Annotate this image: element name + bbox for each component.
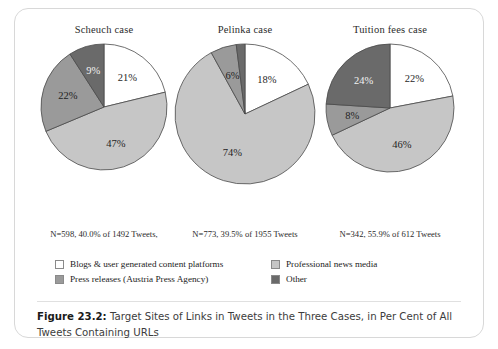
- pie-slice-label: 47%: [106, 138, 126, 149]
- figure-caption: Figure 23.2: Target Sites of Links in Tw…: [37, 309, 465, 341]
- figure-caption-label: Figure 23.2:: [37, 311, 107, 322]
- pie-charts-row: Scheuch case 21%47%22%9% N=598, 40.0% of…: [15, 9, 485, 251]
- pie-chart-scheuch: Scheuch case 21%47%22%9% N=598, 40.0% of…: [29, 23, 179, 251]
- pie-slice-label: 21%: [118, 72, 137, 83]
- chart-legend: Blogs & user generated content platforms…: [41, 259, 461, 291]
- legend-item-other: Other: [271, 274, 307, 285]
- pie-slice-label: 18%: [257, 74, 277, 85]
- sample-size-note-tuition-fees: N=342, 55.9% of 612 Tweets: [307, 229, 473, 239]
- pie-slice-label: 6%: [225, 70, 239, 81]
- figure-container: Scheuch case 21%47%22%9% N=598, 40.0% of…: [14, 8, 484, 338]
- pie-graphic-scheuch: 21%47%22%9%: [38, 41, 170, 173]
- legend-item-professional-news-media: Professional news media: [271, 259, 377, 270]
- pie-slice-label: 9%: [86, 65, 100, 76]
- legend-swatch-professional-news-media: [271, 260, 280, 269]
- legend-swatch-blogs: [55, 260, 64, 269]
- chart-title-tuition-fees: Tuition fees case: [315, 23, 465, 37]
- pie-chart-tuition-fees: Tuition fees case 22%46%8%24% N=342, 55.…: [315, 23, 465, 251]
- legend-label-press-releases: Press releases (Austria Press Agency): [70, 274, 208, 285]
- pie-slice-label: 22%: [405, 73, 425, 84]
- chart-title-pelinka: Pelinka case: [170, 23, 320, 37]
- pie-graphic-pelinka: 18%74%6%: [172, 41, 318, 187]
- chart-title-scheuch: Scheuch case: [29, 23, 179, 37]
- legend-label-other: Other: [286, 274, 307, 285]
- pie-slice-label: 24%: [354, 75, 374, 86]
- caption-divider: [37, 301, 461, 302]
- pie-slice-label: 8%: [345, 110, 359, 121]
- sample-size-note-pelinka: N=773, 39.5% of 1955 Tweets: [162, 229, 328, 239]
- legend-label-professional-news-media: Professional news media: [286, 259, 377, 270]
- legend-item-blogs: Blogs & user generated content platforms: [55, 259, 223, 270]
- legend-item-press-releases: Press releases (Austria Press Agency): [55, 274, 208, 285]
- pie-chart-pelinka: Pelinka case 18%74%6% N=773, 39.5% of 19…: [170, 23, 320, 251]
- legend-swatch-press-releases: [55, 275, 64, 284]
- pie-slice-label: 46%: [392, 139, 412, 150]
- pie-slice-label: 74%: [223, 147, 243, 158]
- legend-swatch-other: [271, 275, 280, 284]
- pie-slice-label: 22%: [58, 90, 77, 101]
- legend-label-blogs: Blogs & user generated content platforms: [70, 259, 223, 270]
- pie-graphic-tuition-fees: 22%46%8%24%: [323, 41, 457, 175]
